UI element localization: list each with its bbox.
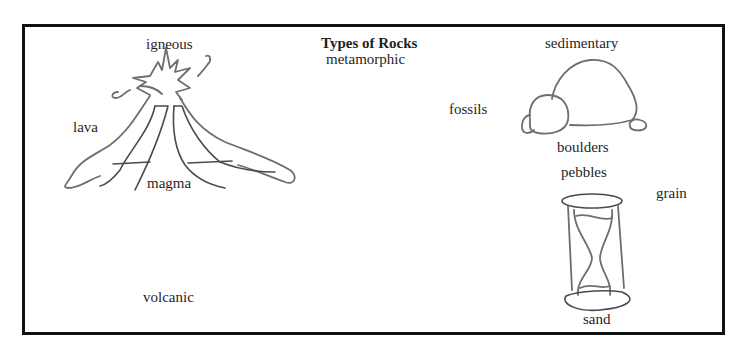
diagram-title: Types of Rocks: [321, 36, 417, 51]
label-igneous: igneous: [146, 37, 193, 52]
label-lava: lava: [73, 120, 98, 135]
label-sedimentary: sedimentary: [545, 36, 618, 51]
label-sand: sand: [583, 312, 611, 327]
label-grain: grain: [656, 186, 687, 201]
label-metamorphic: metamorphic: [326, 52, 405, 67]
label-fossils: fossils: [449, 102, 487, 117]
label-magma: magma: [147, 176, 191, 191]
label-pebbles: pebbles: [561, 165, 607, 180]
label-volcanic: volcanic: [143, 290, 194, 305]
label-boulders: boulders: [557, 140, 609, 155]
